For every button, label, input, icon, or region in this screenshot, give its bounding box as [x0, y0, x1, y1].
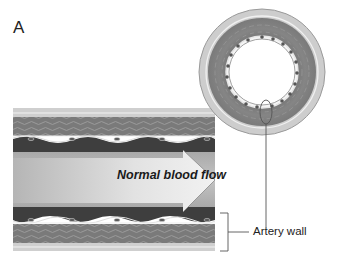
media-bottom: [13, 224, 215, 243]
wall-bracket: [220, 213, 228, 251]
cross-section-lumen: [229, 39, 295, 105]
artery-wall-label: Artery wall: [253, 225, 307, 237]
endothelial-cells-top: [28, 137, 210, 140]
blood-flow-label: Normal blood flow: [117, 168, 226, 182]
media-top: [13, 117, 215, 136]
artery-cross-section: [199, 9, 325, 135]
panel-label: A: [13, 18, 24, 38]
endothelial-cells-bottom: [28, 218, 210, 221]
